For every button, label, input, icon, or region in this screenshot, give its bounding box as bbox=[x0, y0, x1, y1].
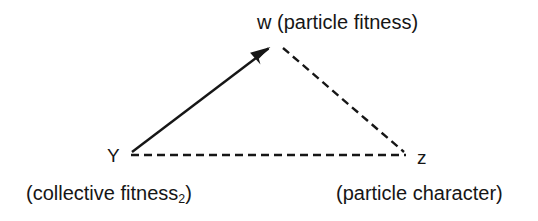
edge-y-to-w-solid-arrow bbox=[132, 49, 269, 153]
diagram-canvas: w (particle fitness) Y z (collective fit… bbox=[0, 0, 538, 221]
caption-left-main: (collective fitness bbox=[26, 182, 178, 204]
caption-particle-character: (particle character) bbox=[336, 182, 503, 204]
caption-left-close: ) bbox=[185, 182, 192, 204]
node-w-label: w (particle fitness) bbox=[257, 11, 418, 33]
node-z-symbol: z bbox=[417, 148, 427, 167]
caption-collective-fitness: (collective fitness2) bbox=[26, 182, 192, 204]
caption-left-subscript: 2 bbox=[178, 192, 185, 206]
node-y-symbol: Y bbox=[107, 146, 120, 165]
edge-w-to-z-dashed bbox=[283, 48, 404, 152]
